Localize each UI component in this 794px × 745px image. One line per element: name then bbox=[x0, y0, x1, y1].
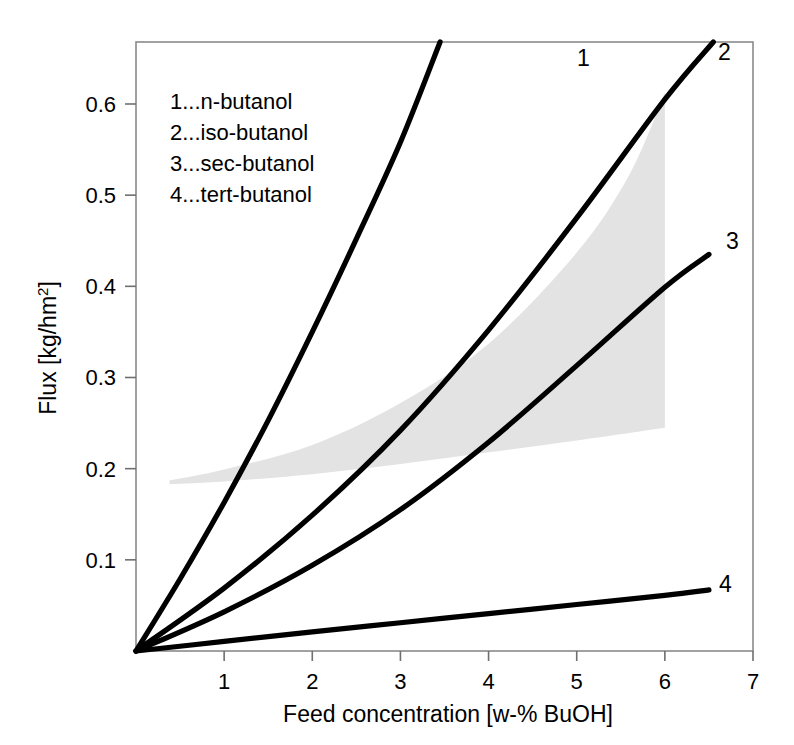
y-tick-label: 0.6 bbox=[85, 92, 116, 117]
legend-entry-1: 1...n-butanol bbox=[170, 89, 292, 114]
x-tick-label: 6 bbox=[659, 669, 671, 694]
y-axis-title-main: Flux bbox=[35, 371, 61, 415]
legend-entry-2: 2...iso-butanol bbox=[170, 120, 308, 145]
x-tick-label: 7 bbox=[747, 669, 759, 694]
x-tick-label: 3 bbox=[394, 669, 406, 694]
y-tick-label: 0.5 bbox=[85, 183, 116, 208]
y-axis-title-unit-open: [kg/hm bbox=[35, 296, 61, 371]
svg-text:Flux [kg/hm2]: Flux [kg/hm2] bbox=[34, 281, 61, 415]
x-tick-label: 1 bbox=[218, 669, 230, 694]
y-tick-label: 0.4 bbox=[85, 274, 116, 299]
y-tick-label: 0.3 bbox=[85, 365, 116, 390]
x-tick-label: 5 bbox=[571, 669, 583, 694]
legend-entry-3: 3...sec-butanol bbox=[170, 151, 314, 176]
y-axis-title: Flux [kg/hm2] bbox=[34, 281, 61, 415]
x-tick-label: 4 bbox=[482, 669, 494, 694]
y-tick-label: 0.1 bbox=[85, 548, 116, 573]
y-tick-label: 0.2 bbox=[85, 457, 116, 482]
y-axis-ticks bbox=[125, 104, 136, 560]
x-axis-tick-labels: 1234567 bbox=[218, 669, 759, 694]
x-tick-label: 2 bbox=[306, 669, 318, 694]
x-axis-title: Feed concentration [w-% BuOH] bbox=[283, 701, 613, 727]
legend-entry-4: 4...tert-butanol bbox=[170, 182, 312, 207]
curve-label-2: 2 bbox=[718, 39, 731, 65]
y-axis-tick-labels: 0.10.20.30.40.50.6 bbox=[85, 92, 116, 573]
y-axis-title-unit-close: ] bbox=[35, 281, 61, 287]
x-axis-ticks bbox=[224, 651, 753, 661]
curve-label-1: 1 bbox=[577, 45, 590, 71]
curve-label-3: 3 bbox=[726, 228, 739, 254]
chart-figure: 1234567 0.10.20.30.40.50.6 1234 1...n-bu… bbox=[0, 0, 794, 745]
curve-label-4: 4 bbox=[719, 571, 732, 597]
y-axis-title-superscript: 2 bbox=[34, 288, 51, 296]
flux-vs-feed-concentration-chart: 1234567 0.10.20.30.40.50.6 1234 1...n-bu… bbox=[0, 0, 794, 745]
